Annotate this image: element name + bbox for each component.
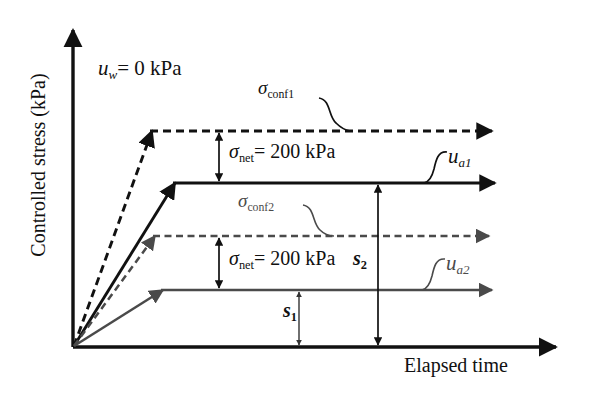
uw-symbol: u bbox=[98, 56, 109, 80]
s1-symbol: s bbox=[283, 299, 291, 321]
uw-subscript: w bbox=[109, 67, 118, 82]
sigma-conf2-label: σconf2 bbox=[238, 191, 274, 214]
sigma-net-lower-label: σnet= 200 kPa bbox=[229, 248, 335, 271]
x-axis-label: Elapsed time bbox=[404, 355, 508, 375]
sigma-net-lower-symbol: σ bbox=[229, 247, 239, 269]
uw-unit: kPa bbox=[150, 56, 182, 80]
s1-subscript: 1 bbox=[291, 310, 297, 324]
sigma-conf2-leader bbox=[303, 205, 334, 236]
sigma-net-upper-label: σnet= 200 kPa bbox=[229, 141, 335, 164]
pore-water-pressure-label: uw= 0 kPa bbox=[98, 58, 182, 81]
sigma-net-lower-relation: = bbox=[254, 247, 265, 269]
ua1-subscript: a1 bbox=[459, 155, 472, 170]
sigma-conf2-subscript: conf2 bbox=[247, 201, 274, 214]
sigma-conf1-label: σconf1 bbox=[258, 78, 294, 101]
sigma-net-upper-value: 200 bbox=[270, 140, 300, 162]
sigma-conf1-symbol: σ bbox=[258, 77, 267, 98]
sigma-net-upper-relation: = bbox=[254, 140, 265, 162]
sigma-net-lower-value: 200 bbox=[270, 247, 300, 269]
suction-2-label: s2 bbox=[353, 248, 367, 271]
uw-relation: = bbox=[117, 56, 129, 80]
s2-symbol: s bbox=[353, 247, 361, 269]
ua1-leader bbox=[424, 152, 447, 183]
stress-time-schematic-figure: Controlled stress (kPa) Elapsed time uw=… bbox=[0, 0, 611, 409]
ua2-subscript: a2 bbox=[457, 262, 470, 277]
figure-canvas bbox=[0, 0, 611, 409]
sigma-net-upper-symbol: σ bbox=[229, 140, 239, 162]
sigma-conf1-subscript: conf1 bbox=[267, 88, 294, 101]
ua2-symbol: u bbox=[446, 251, 457, 275]
sigma-net-lower-subscript: net bbox=[239, 258, 254, 272]
sigma-net-upper-subscript: net bbox=[239, 151, 254, 165]
sigma-conf1-leader bbox=[319, 98, 350, 131]
suction-1-label: s1 bbox=[283, 300, 297, 323]
ua2-ramp bbox=[74, 290, 163, 346]
y-axis-label: Controlled stress (kPa) bbox=[28, 35, 48, 295]
sigma-net-lower-unit: kPa bbox=[305, 247, 335, 269]
s2-subscript: 2 bbox=[361, 258, 367, 272]
sigma-net-upper-unit: kPa bbox=[305, 140, 335, 162]
ua2-leader bbox=[422, 259, 445, 290]
sigma-conf2-ramp bbox=[74, 236, 155, 346]
sigma-conf2-symbol: σ bbox=[238, 190, 247, 211]
ua1-label: ua1 bbox=[448, 146, 472, 169]
uw-value: 0 bbox=[134, 56, 145, 80]
ua2-label: ua2 bbox=[446, 253, 470, 276]
ua1-symbol: u bbox=[448, 144, 459, 168]
